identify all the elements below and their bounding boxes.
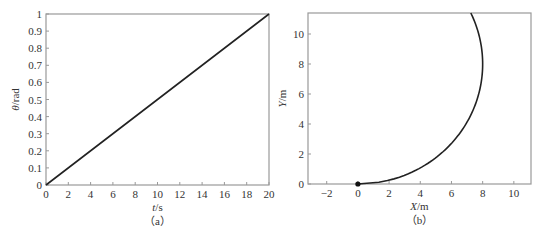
y-axis-label: Y/m [276,89,288,107]
x-tick-label: 18 [241,188,253,200]
plot-area-frame [308,13,531,184]
x-tick-label: 4 [418,187,424,199]
x-axis-label: t/s [152,201,162,213]
figure: 0246810121416182000.10.20.30.40.50.60.70… [0,0,541,234]
x-tick-label: −2 [321,187,333,199]
x-tick-label: 8 [480,187,486,199]
start-point-marker [355,181,360,186]
y-tick-label: 0.6 [28,76,42,88]
x-tick-label: 16 [219,188,231,200]
subfigure-caption: （b） [406,214,434,226]
y-tick-label: 0.8 [28,42,42,54]
x-tick-label: 10 [508,187,520,199]
x-tick-label: 20 [264,188,276,200]
x-axis-label: X/m [409,200,429,212]
y-axis-label: θ/rad [9,88,21,111]
x-tick-label: 4 [88,188,94,200]
y-tick-label: 0.5 [28,94,42,106]
y-tick-label: 1 [37,8,43,20]
x-tick-label: 2 [66,188,72,200]
y-tick-label: 2 [299,148,305,160]
y-tick-label: 0.1 [28,162,42,174]
x-tick-label: 6 [449,187,455,199]
x-tick-label: 6 [110,188,116,200]
y-tick-label: 0.4 [28,111,42,123]
y-tick-label: 0 [37,179,43,191]
y-tick-label: 0.9 [28,25,42,37]
y-tick-label: 0.7 [28,59,42,71]
x-tick-label: 0 [355,187,361,199]
y-tick-label: 0.2 [28,145,42,157]
x-tick-label: 14 [197,188,209,200]
y-tick-label: 10 [293,28,305,40]
y-tick-label: 6 [299,88,305,100]
subfigure-caption: （a） [144,215,171,227]
x-tick-label: 2 [386,187,392,199]
x-tick-label: 0 [43,188,49,200]
chart-a: 0246810121416182000.10.20.30.40.50.60.70… [9,8,275,227]
chart-b: −202468100246810X/mY/m（b） [276,13,531,226]
x-tick-label: 10 [152,188,164,200]
y-tick-label: 0.3 [28,128,42,140]
y-tick-label: 0 [299,178,305,190]
y-tick-label: 4 [299,118,305,130]
x-tick-label: 8 [132,188,138,200]
x-tick-label: 12 [174,188,185,200]
y-tick-label: 8 [299,58,305,70]
